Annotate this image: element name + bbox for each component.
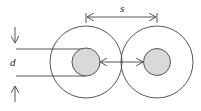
conductor-diagram: d s	[0, 0, 201, 111]
spacing-label: s	[120, 2, 124, 14]
right-core	[144, 49, 171, 76]
diameter-label: d	[10, 56, 16, 68]
left-core	[72, 48, 100, 76]
